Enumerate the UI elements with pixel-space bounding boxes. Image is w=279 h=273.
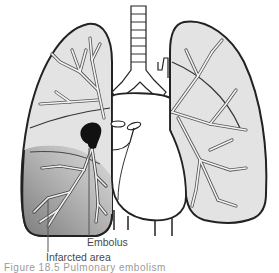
figure-caption: Figure 18.5 Pulmonary embolism [4,262,166,273]
trachea [112,6,168,100]
embolus-label: Embolus [87,236,128,248]
lung-diagram [0,0,279,273]
right-lung [21,24,112,236]
